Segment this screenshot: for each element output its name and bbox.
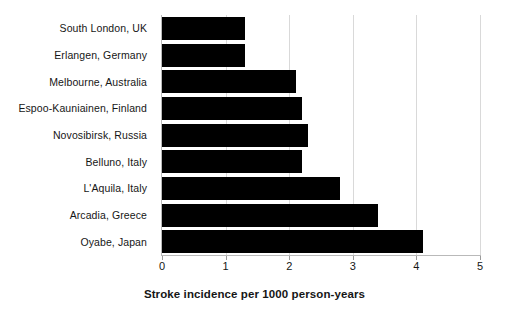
category-label: Belluno, Italy: [0, 156, 147, 168]
category-label: Erlangen, Germany: [0, 49, 147, 61]
x-tick-label: 3: [343, 260, 363, 273]
category-label: South London, UK: [0, 22, 147, 34]
bar-chart: South London, UKErlangen, GermanyMelbour…: [0, 0, 509, 310]
x-axis-title: Stroke incidence per 1000 person-years: [0, 288, 509, 300]
x-tick-label: 5: [470, 260, 490, 273]
x-tick-label: 0: [152, 260, 172, 273]
bar: [162, 17, 245, 40]
bar: [162, 44, 245, 67]
bar: [162, 204, 378, 227]
bar: [162, 70, 296, 93]
category-label: Melbourne, Australia: [0, 76, 147, 88]
gridline-4: [416, 15, 417, 255]
category-label: L'Aquila, Italy: [0, 182, 147, 194]
bar: [162, 97, 302, 120]
category-label: Oyabe, Japan: [0, 236, 147, 248]
category-label: Novosibirsk, Russia: [0, 129, 147, 141]
bar: [162, 124, 308, 147]
bar: [162, 230, 423, 253]
x-axis-ticks: 012345: [162, 256, 482, 274]
bar: [162, 150, 302, 173]
gridline-5: [480, 15, 481, 255]
category-label: Espoo-Kauniainen, Finland: [0, 102, 147, 114]
bar: [162, 177, 340, 200]
x-tick-label: 4: [406, 260, 426, 273]
x-tick-label: 2: [279, 260, 299, 273]
x-tick-label: 1: [216, 260, 236, 273]
plot-area: [162, 15, 480, 255]
category-label: Arcadia, Greece: [0, 209, 147, 221]
category-label-column: South London, UKErlangen, GermanyMelbour…: [0, 15, 155, 255]
